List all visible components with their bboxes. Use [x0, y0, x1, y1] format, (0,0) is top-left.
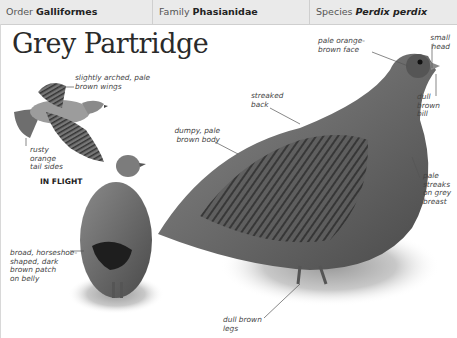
label-line: brown face	[318, 46, 365, 55]
label-breast: pale streaks on grey breast	[423, 172, 451, 206]
label-line: bill	[417, 110, 440, 119]
bird-illustrations	[0, 0, 457, 338]
label-legs: dull brown legs	[223, 316, 262, 333]
label-line: on belly	[10, 275, 77, 284]
label-line: back	[251, 101, 283, 110]
label-belly: broad, horseshoe- shaped, dark brown pat…	[10, 249, 77, 283]
label-line: brown body	[170, 136, 220, 145]
label-body: dumpy, pale brown body	[170, 127, 220, 144]
in-flight-caption: IN FLIGHT	[40, 177, 82, 186]
label-face: pale orange- brown face	[318, 37, 365, 54]
label-line: head	[420, 43, 450, 52]
label-bill: dull brown bill	[417, 93, 440, 119]
label-line: brown wings	[75, 83, 150, 92]
label-back: streaked back	[251, 92, 283, 109]
label-line: tail sides	[30, 163, 63, 172]
label-wings: slightly arched, pale brown wings	[75, 74, 150, 91]
label-line: legs	[223, 325, 262, 334]
label-head: small head	[420, 34, 450, 51]
label-line: breast	[423, 198, 451, 207]
label-tail: rusty orange tail sides	[30, 146, 63, 172]
standing-partridge-front	[80, 155, 152, 298]
